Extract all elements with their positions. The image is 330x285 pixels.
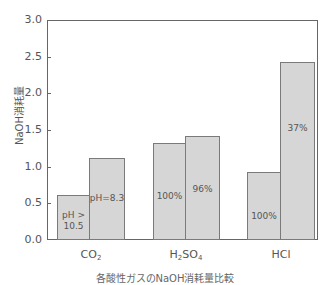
y-tick <box>47 203 51 204</box>
y-tick <box>47 57 51 58</box>
bar-label: 100% <box>153 191 186 202</box>
y-tick-label: 0.5 <box>8 197 42 209</box>
chart-caption: 各酸性ガスのNaOH消耗量比較 <box>0 270 330 285</box>
bar-label: pH=8.3 <box>89 193 125 204</box>
x-tick-label-hcl: HCl <box>251 248 311 261</box>
bar-hcl-b <box>280 62 315 240</box>
bar-label: 37% <box>280 123 315 134</box>
x-tick-label-h2so4: H2SO4 <box>156 248 216 262</box>
bar-hcl-a <box>247 172 281 240</box>
y-tick-label: 3.0 <box>8 14 42 26</box>
y-tick-label: 0.0 <box>8 234 42 246</box>
y-tick <box>47 130 51 131</box>
bar-label: pH > 10.5 <box>57 210 90 232</box>
y-tick-label: 2.5 <box>8 51 42 63</box>
bar-label: 96% <box>185 184 220 195</box>
y-tick <box>47 93 51 94</box>
y-tick-label: 2.0 <box>8 87 42 99</box>
x-tick-label-co2: CO2 <box>61 248 121 262</box>
y-tick-label: 1.5 <box>8 124 42 136</box>
bar-label: 100% <box>247 211 281 222</box>
y-tick-label: 1.0 <box>8 161 42 173</box>
y-tick <box>47 167 51 168</box>
